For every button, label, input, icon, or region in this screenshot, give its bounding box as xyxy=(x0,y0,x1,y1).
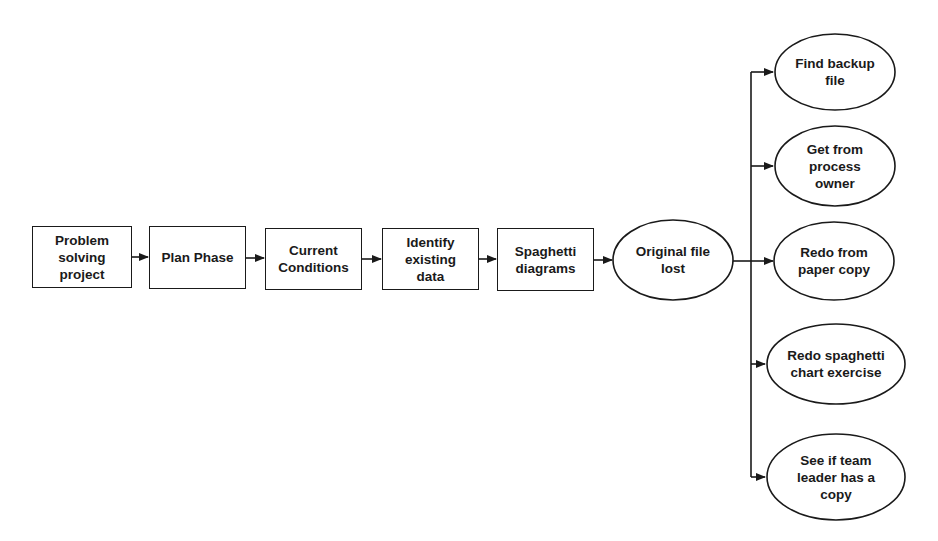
option-redo-from-paper-copy: Redo from paper copy xyxy=(774,222,894,300)
option-redo-spaghetti-chart-exercise: Redo spaghetti chart exercise xyxy=(767,324,905,404)
step-label: Current Conditions xyxy=(278,242,349,276)
step-spaghetti-diagrams: Spaghetti diagrams xyxy=(497,228,594,291)
problem-original-file-lost: Original file lost xyxy=(613,220,733,300)
option-label: Redo from paper copy xyxy=(798,244,870,278)
step-problem-solving-project: Problem solving project xyxy=(32,226,132,288)
step-label: Plan Phase xyxy=(161,249,233,266)
step-current-conditions: Current Conditions xyxy=(265,228,362,290)
option-label: Get from process owner xyxy=(807,141,863,192)
step-label: Spaghetti diagrams xyxy=(515,243,577,277)
option-label: Find backup file xyxy=(795,55,875,89)
step-identify-existing-data: Identify existing data xyxy=(382,228,479,290)
problem-label: Original file lost xyxy=(636,243,710,277)
option-find-backup-file: Find backup file xyxy=(775,34,895,110)
option-get-from-process-owner: Get from process owner xyxy=(775,126,895,206)
step-label: Problem solving project xyxy=(55,232,109,283)
step-plan-phase: Plan Phase xyxy=(149,226,246,289)
step-label: Identify existing data xyxy=(405,234,456,285)
option-label: See if team leader has a copy xyxy=(797,452,875,503)
option-see-if-team-leader-has-copy: See if team leader has a copy xyxy=(767,434,905,520)
option-label: Redo spaghetti chart exercise xyxy=(787,347,885,381)
